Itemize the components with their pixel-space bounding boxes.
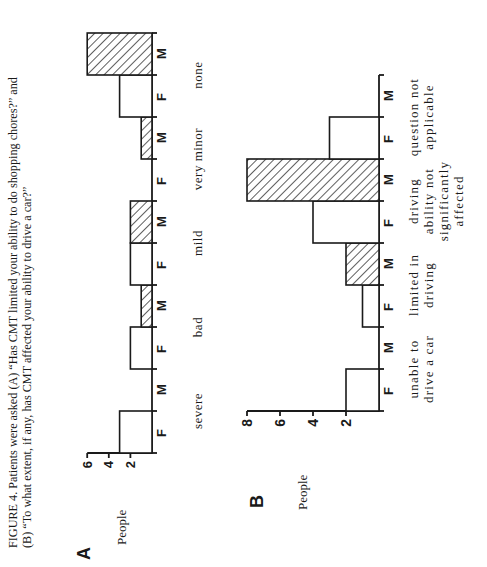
bar-female — [330, 117, 380, 159]
sex-label: F — [154, 429, 169, 437]
sex-label: M — [154, 48, 169, 59]
bar-male — [141, 117, 152, 159]
value-tick-label: 4 — [305, 419, 321, 427]
panel-label: A — [74, 547, 94, 560]
bar-male — [141, 285, 152, 327]
category-label: bad — [190, 317, 205, 337]
value-tick-label: 4 — [101, 460, 116, 468]
category-label: driving — [421, 262, 436, 308]
panel-a: 246FMFMFMFMFMseverebadmildvery minornone… — [74, 33, 205, 560]
sex-label: F — [381, 135, 396, 143]
bar-male — [346, 243, 379, 285]
value-tick-label: 2 — [123, 461, 138, 468]
bar-female — [130, 243, 152, 285]
value-tick-label: 8 — [239, 419, 255, 427]
value-tick-label: 6 — [272, 419, 288, 427]
sex-label: F — [154, 177, 169, 185]
sex-label: M — [381, 342, 396, 353]
caption-line-2: (B) “To what extent, if any, has CMT aff… — [20, 187, 34, 548]
category-label: unable to — [406, 340, 421, 399]
category-label: ability not — [421, 168, 436, 234]
bar-female — [346, 369, 379, 411]
panel-label: B — [247, 495, 267, 508]
category-label: limited in — [406, 254, 421, 316]
bar-male — [130, 201, 152, 243]
category-label: affected — [451, 175, 466, 226]
sex-label: M — [154, 216, 169, 227]
category-label: none — [190, 61, 205, 88]
bar-female — [313, 201, 379, 243]
panel-b: 2468FMFMFMFMunable todrive a carlimited … — [239, 75, 466, 510]
y-axis-label: People — [295, 474, 310, 510]
sex-label: M — [381, 174, 396, 185]
figure: FIGURE 4. Patients were asked (A) “Has C… — [0, 0, 487, 567]
sex-label: F — [154, 93, 169, 101]
category-label: significantly — [436, 161, 451, 242]
sex-label: M — [154, 300, 169, 311]
value-tick-label: 6 — [80, 461, 95, 468]
bar-female — [120, 75, 152, 117]
category-label: mild — [190, 230, 205, 256]
bar-male — [247, 159, 379, 201]
bar-male — [87, 33, 152, 75]
sex-label: F — [381, 387, 396, 395]
sex-label: F — [381, 303, 396, 311]
sex-label: F — [154, 345, 169, 353]
sex-label: M — [381, 258, 396, 269]
y-axis-label: People — [114, 509, 129, 545]
sex-label: M — [381, 90, 396, 101]
category-label: driving — [406, 178, 421, 224]
category-label: very minor — [190, 128, 205, 191]
bar-female — [363, 285, 380, 327]
caption-line-1: FIGURE 4. Patients were asked (A) “Has C… — [6, 77, 20, 548]
sex-label: F — [154, 261, 169, 269]
sex-label: M — [154, 132, 169, 143]
category-label: question not — [406, 78, 421, 156]
category-label: applicable — [421, 84, 436, 149]
value-tick-label: 2 — [338, 419, 354, 427]
bar-female — [130, 327, 152, 369]
category-label: drive a car — [421, 335, 436, 403]
sex-label: M — [154, 384, 169, 395]
category-label: severe — [190, 393, 205, 429]
bar-female — [120, 411, 152, 453]
sex-label: F — [381, 219, 396, 227]
